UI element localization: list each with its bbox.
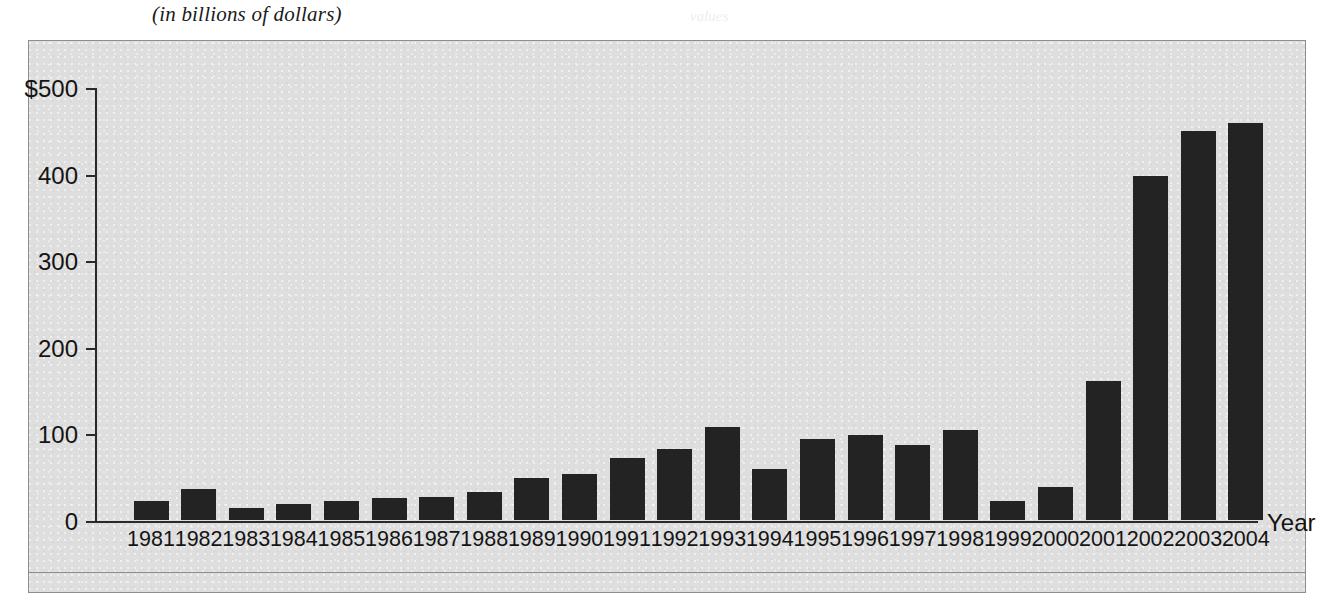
bar-1997 [895, 445, 930, 520]
bar-1990 [562, 474, 597, 520]
x-axis-label-1990: 1990 [555, 527, 603, 552]
x-axis-label-1981: 1981 [127, 527, 175, 552]
scan-bleed-artifact: values [690, 8, 752, 22]
bar-1985 [324, 501, 359, 520]
bar-1992 [657, 449, 692, 520]
x-axis-label-2003: 2003 [1174, 527, 1222, 552]
y-axis-tick [86, 88, 97, 90]
bar-2003 [1181, 131, 1216, 520]
x-axis-label-1985: 1985 [317, 527, 365, 552]
x-axis-label-2004: 2004 [1222, 527, 1270, 552]
x-axis-label-1997: 1997 [889, 527, 937, 552]
x-axis-label-1991: 1991 [603, 527, 651, 552]
bar-1994 [752, 469, 787, 520]
bar-1996 [848, 435, 883, 520]
y-axis-tick-label: 300 [38, 248, 78, 276]
bar-2004 [1228, 123, 1263, 520]
bar-1995 [800, 439, 835, 520]
x-axis-label-1999: 1999 [984, 527, 1032, 552]
y-axis-tick-label: $500 [25, 75, 78, 103]
bar-2000 [1038, 487, 1073, 520]
y-axis-tick [86, 434, 97, 436]
x-axis-label-2002: 2002 [1127, 527, 1175, 552]
x-axis-label-1983: 1983 [222, 527, 270, 552]
x-axis-title: Year [1267, 509, 1316, 537]
bar-1988 [467, 492, 502, 520]
bar-1982 [181, 489, 216, 520]
bar-1989 [514, 478, 549, 520]
bar-1986 [372, 498, 407, 520]
x-axis-label-1989: 1989 [508, 527, 556, 552]
y-axis-tick-label: 100 [38, 421, 78, 449]
x-axis-label-1984: 1984 [270, 527, 318, 552]
figure-page: (in billions of dollars) values 01002003… [0, 0, 1335, 602]
bar-1984 [276, 504, 311, 520]
x-axis-line [95, 521, 1258, 523]
bar-1991 [610, 458, 645, 520]
bar-1999 [990, 501, 1025, 520]
bar-chart-plot: 0100200300400$500 1981198219831984198519… [29, 41, 1305, 592]
x-axis-label-1987: 1987 [413, 527, 461, 552]
x-axis-label-2000: 2000 [1031, 527, 1079, 552]
y-axis-tick-label: 200 [38, 335, 78, 363]
bar-1981 [134, 501, 169, 520]
bar-1998 [943, 430, 978, 520]
y-axis-tick [86, 348, 97, 350]
y-axis-tick-label: 0 [65, 508, 78, 536]
x-axis-label-1998: 1998 [936, 527, 984, 552]
x-axis-label-1993: 1993 [698, 527, 746, 552]
bar-2001 [1086, 381, 1121, 520]
x-axis-label-2001: 2001 [1079, 527, 1127, 552]
bar-1993 [705, 427, 740, 520]
x-axis-label-1988: 1988 [460, 527, 508, 552]
x-axis-label-1986: 1986 [365, 527, 413, 552]
y-axis-line [95, 89, 97, 522]
x-axis-label-1992: 1992 [651, 527, 699, 552]
x-axis-label-1995: 1995 [793, 527, 841, 552]
bar-1987 [419, 497, 454, 520]
y-axis-tick [86, 521, 97, 523]
y-axis-tick [86, 261, 97, 263]
bar-2002 [1133, 176, 1168, 520]
figure-subtitle: (in billions of dollars) [152, 2, 342, 27]
x-axis-label-1982: 1982 [175, 527, 223, 552]
chart-panel: 0100200300400$500 1981198219831984198519… [28, 40, 1306, 593]
x-axis-label-1996: 1996 [841, 527, 889, 552]
bar-1983 [229, 508, 264, 520]
y-axis-tick [86, 175, 97, 177]
x-axis-label-1994: 1994 [746, 527, 794, 552]
y-axis-tick-label: 400 [38, 162, 78, 190]
